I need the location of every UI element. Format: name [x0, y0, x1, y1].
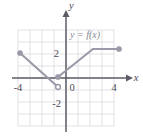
y-axis-arrow-icon [63, 10, 70, 17]
curve-segment-left [20, 53, 58, 87]
marker-right-endpoint-closed [116, 46, 121, 51]
curve-segment-middle [58, 49, 93, 77]
x-tick-label-neg4: -4 [14, 82, 23, 93]
x-axis-label: x [133, 72, 139, 83]
marker-left-branch-open [56, 85, 61, 90]
marker-middle-start-closed [55, 74, 60, 79]
x-axis-arrow-icon [126, 75, 133, 82]
axis-names: x y [68, 0, 139, 83]
y-tick-label-2: 2 [54, 48, 59, 59]
x-tick-label-4: 4 [111, 82, 117, 93]
x-tick-label-zero: 0 [69, 82, 74, 93]
y-tick-label-neg2: -2 [52, 98, 61, 109]
y-axis-label: y [68, 0, 74, 11]
graph-figure: -4 0 4 2 -2 x y y = f(x) [0, 0, 143, 140]
marker-left-endpoint-closed [17, 50, 22, 55]
function-graph-plot: -4 0 4 2 -2 x y y = f(x) [0, 0, 143, 140]
function-equation-label: y = f(x) [69, 29, 101, 41]
